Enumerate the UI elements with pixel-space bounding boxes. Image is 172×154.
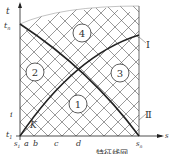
region-2: 2 <box>26 63 44 81</box>
region-1: 1 <box>69 95 87 113</box>
caption: 特征线网 <box>96 148 128 154</box>
svg-text:3: 3 <box>117 68 123 79</box>
s-axis-label: s <box>165 132 169 140</box>
i-label: i <box>10 110 13 119</box>
tn-label: tn <box>4 21 10 31</box>
curve-II-label: Ⅱ <box>145 109 152 120</box>
characteristics-diagram: t tn i t1 s1 a b c d sn s K Ⅰ Ⅱ 4 2 3 1 … <box>0 0 172 154</box>
tick-c: c <box>54 139 59 148</box>
tick-d: d <box>76 139 81 148</box>
point-k-label: K <box>29 120 38 130</box>
svg-text:1: 1 <box>75 99 81 110</box>
svg-text:2: 2 <box>32 67 38 78</box>
svg-text:4: 4 <box>79 28 85 39</box>
sn-label: sn <box>136 140 143 149</box>
t1-label: t1 <box>6 130 12 140</box>
top-boundary <box>20 6 139 24</box>
s1-label: s1 <box>14 140 20 149</box>
region-3: 3 <box>111 64 129 82</box>
tick-a: a <box>24 139 29 148</box>
region-4: 4 <box>73 24 91 42</box>
t-axis-label: t <box>6 6 10 16</box>
t-axis-arrow-icon <box>18 2 22 8</box>
tick-b: b <box>33 139 38 148</box>
bold-curve-ascending <box>20 35 139 136</box>
curve-I-label: Ⅰ <box>146 39 150 50</box>
s-axis-arrow-icon <box>157 134 164 138</box>
